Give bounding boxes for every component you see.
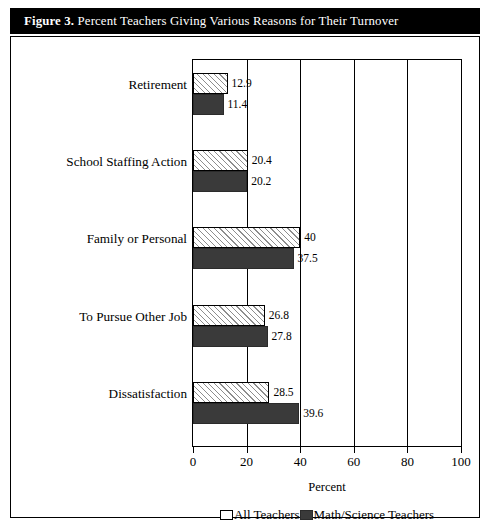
- bar-value-label: 39.6: [303, 403, 323, 424]
- figure-title: Figure 3. Percent Teachers Giving Variou…: [24, 14, 398, 29]
- bar-all: [193, 382, 269, 403]
- bar-value-label: 40: [304, 227, 316, 248]
- bar-value-label: 37.5: [298, 248, 318, 269]
- chart-category-row: Family or Personal4037.5: [193, 214, 461, 291]
- bar-all: [193, 227, 300, 248]
- x-axis-tick: [193, 447, 194, 453]
- bar-math: [193, 248, 294, 269]
- x-axis-tick: [354, 447, 355, 453]
- chart-category-row: Retirement12.911.4: [193, 60, 461, 137]
- bar-math: [193, 94, 224, 115]
- bar-all: [193, 73, 228, 94]
- figure-body: Percent All TeachersMath/Science Teacher…: [10, 36, 480, 518]
- chart-category-row: School Staffing Action20.420.2: [193, 137, 461, 214]
- bar-value-label: 20.4: [252, 150, 272, 171]
- x-axis-tick: [461, 447, 462, 453]
- category-label: Dissatisfaction: [109, 385, 187, 402]
- bar-value-label: 26.8: [269, 305, 289, 326]
- bar-math: [193, 326, 268, 347]
- chart-category-row: To Pursue Other Job26.827.8: [193, 292, 461, 369]
- x-axis-tick: [300, 447, 301, 453]
- bar-value-label: 27.8: [272, 326, 292, 347]
- figure-title-text: Percent Teachers Giving Various Reasons …: [78, 14, 399, 28]
- x-axis-tick-label: 60: [347, 454, 360, 470]
- figure-number-label: Figure 3.: [24, 14, 74, 28]
- legend-item[interactable]: Math/Science Teachers: [300, 508, 435, 521]
- bar-value-label: 11.4: [228, 94, 248, 115]
- category-label: Family or Personal: [87, 230, 187, 247]
- x-axis-tick-label: 40: [294, 454, 307, 470]
- bar-all: [193, 150, 248, 171]
- chart-legend: All TeachersMath/Science Teachers: [193, 508, 461, 521]
- chart-category-row: Dissatisfaction28.539.6: [193, 369, 461, 446]
- bar-value-label: 12.9: [232, 73, 252, 94]
- figure-container: Figure 3. Percent Teachers Giving Variou…: [0, 0, 490, 530]
- bar-all: [193, 305, 265, 326]
- x-axis-tick-label: 80: [401, 454, 414, 470]
- legend-swatch-math: [300, 510, 313, 520]
- bar-math: [193, 403, 299, 424]
- x-axis-title: Percent: [193, 480, 461, 495]
- plot-area: Percent All TeachersMath/Science Teacher…: [192, 59, 462, 447]
- legend-item[interactable]: All Teachers: [220, 508, 300, 521]
- bar-value-label: 28.5: [273, 382, 293, 403]
- x-axis-tick-label: 20: [240, 454, 253, 470]
- bar-math: [193, 171, 247, 192]
- category-label: School Staffing Action: [66, 153, 187, 170]
- bar-value-label: 20.2: [251, 171, 271, 192]
- category-label: To Pursue Other Job: [79, 308, 187, 325]
- category-label: Retirement: [128, 76, 187, 93]
- legend-label: Math/Science Teachers: [314, 508, 435, 521]
- x-axis-tick-label: 100: [451, 454, 471, 470]
- figure-title-bar: Figure 3. Percent Teachers Giving Variou…: [10, 8, 480, 34]
- legend-swatch-all: [220, 510, 233, 520]
- x-axis-tick-label: 0: [190, 454, 197, 470]
- legend-label: All Teachers: [234, 508, 300, 521]
- x-axis-tick: [247, 447, 248, 453]
- x-axis-tick: [407, 447, 408, 453]
